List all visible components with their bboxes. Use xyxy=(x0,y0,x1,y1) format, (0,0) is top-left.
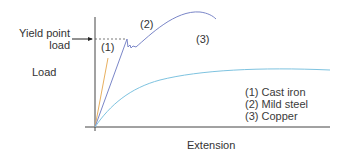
x-axis-label: Extension xyxy=(187,139,235,151)
yield-point-label: Yield point load xyxy=(6,27,70,51)
legend: (1) Cast iron (2) Mild steel (3) Copper xyxy=(245,86,308,122)
legend-item-cast-iron: (1) Cast iron xyxy=(245,86,308,98)
curve-label-1: (1) xyxy=(101,41,114,53)
yield-label-line2: load xyxy=(6,39,70,51)
curve-label-3: (3) xyxy=(196,33,209,45)
curve-mild-steel xyxy=(95,12,216,127)
curve-label-2: (2) xyxy=(140,18,153,30)
arrow-head-icon xyxy=(88,37,93,41)
y-axis-label: Load xyxy=(32,66,56,78)
curve-cast-iron xyxy=(95,58,108,127)
legend-item-mild-steel: (2) Mild steel xyxy=(245,98,308,110)
yield-label-line1: Yield point xyxy=(6,27,70,39)
legend-item-copper: (3) Copper xyxy=(245,110,308,122)
diagram-canvas xyxy=(0,0,345,163)
